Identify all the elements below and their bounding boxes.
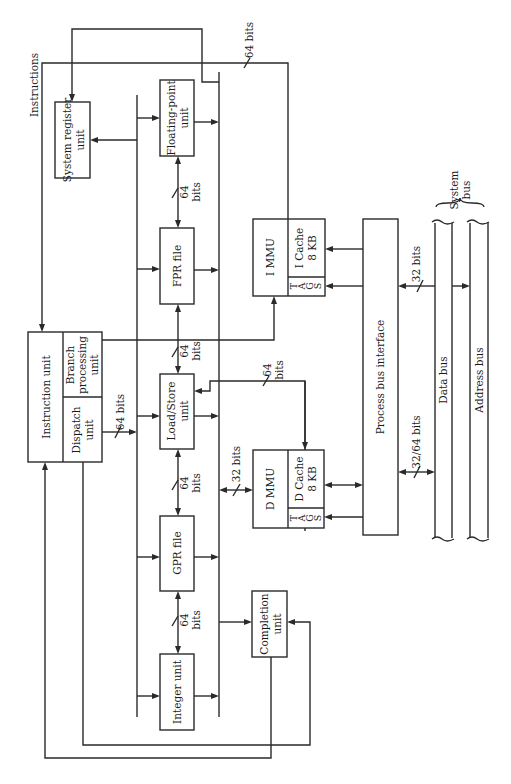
- width-label: 64: [178, 344, 190, 358]
- width-label: 32 bits: [230, 446, 242, 482]
- system-bus: Data bus Address bus System bus: [432, 171, 489, 541]
- system-bus-label-1: System: [448, 171, 460, 210]
- floating-point-unit: Floating-point unit: [160, 80, 194, 156]
- arrow-icon: [39, 324, 45, 332]
- width-label: bits: [190, 473, 202, 493]
- gpr-file: GPR file: [160, 516, 194, 591]
- fpr-file: FPR file: [160, 228, 194, 304]
- dispatch-unit-label-2: unit: [83, 419, 95, 441]
- load-store-unit: Load/Store unit: [160, 374, 194, 449]
- floating-point-label-1: Floating-point: [165, 80, 177, 156]
- width-label: bits: [190, 610, 202, 630]
- system-register-label-1: System register: [61, 97, 73, 182]
- dmmu-dcache: D MMU D Cache 8 KB T A G S: [253, 450, 324, 528]
- branch-unit-label-3: unit: [88, 354, 100, 376]
- integer-unit-label: Integer unit: [171, 659, 183, 724]
- width-label: 32/64 bits: [410, 415, 422, 468]
- completion-label-1: Completion: [258, 593, 270, 655]
- width-label: 64: [178, 185, 190, 199]
- fpr-file-label: FPR file: [171, 245, 183, 287]
- process-bus-interface: Process bus interface: [363, 219, 398, 535]
- width-label: 64: [178, 613, 190, 627]
- icache-label-1: I Cache: [293, 228, 305, 269]
- load-store-label-2: unit: [178, 400, 190, 422]
- completion-label-2: unit: [271, 613, 283, 635]
- integer-unit: Integer unit: [160, 654, 194, 730]
- system-register-unit: System register unit: [55, 97, 90, 182]
- address-bus-label: Address bus: [473, 347, 485, 413]
- width-label: 32 bits: [410, 246, 422, 282]
- instruction-unit-label: Instruction unit: [40, 355, 52, 439]
- system-bus-label-2: bus: [460, 181, 472, 200]
- completion-unit: Completion unit: [252, 591, 287, 657]
- instructions-label: Instructions: [28, 53, 40, 117]
- width-label: 64: [261, 363, 273, 377]
- process-bus-interface-label: Process bus interface: [374, 320, 386, 435]
- load-store-label-1: Load/Store: [165, 382, 177, 441]
- dcache-label-1: D Cache: [293, 457, 305, 502]
- width-label: bits: [190, 182, 202, 202]
- top-64-bits-label: 64 bits: [243, 22, 255, 58]
- tags-letter: S: [312, 515, 323, 522]
- dispatch-unit-label-1: Dispatch: [70, 406, 82, 453]
- immu-icache: I MMU I Cache 8 KB T A G S: [253, 219, 325, 296]
- width-label: bits: [273, 360, 285, 380]
- tags-letter: S: [312, 283, 323, 290]
- instruction-unit: Instruction unit Branch processing unit …: [28, 332, 102, 462]
- branch-unit-label-1: Branch: [64, 346, 76, 385]
- dmmu-label: D MMU: [264, 468, 276, 510]
- gpr-file-label: GPR file: [171, 531, 183, 574]
- arrow-icon: [90, 137, 98, 143]
- dcache-label-2: 8 KB: [306, 466, 318, 492]
- floating-point-label-2: unit: [178, 107, 190, 129]
- width-label: bits: [190, 341, 202, 361]
- data-bus-label: Data bus: [437, 356, 449, 403]
- system-register-label-2: unit: [74, 129, 86, 151]
- icache-label-2: 8 KB: [306, 235, 318, 261]
- branch-unit-label-2: processing: [76, 336, 88, 394]
- immu-label: I MMU: [264, 238, 276, 276]
- width-label: 64 bits: [114, 394, 126, 430]
- width-label: 64: [178, 476, 190, 490]
- processor-block-diagram: Instruction unit Branch processing unit …: [0, 0, 511, 784]
